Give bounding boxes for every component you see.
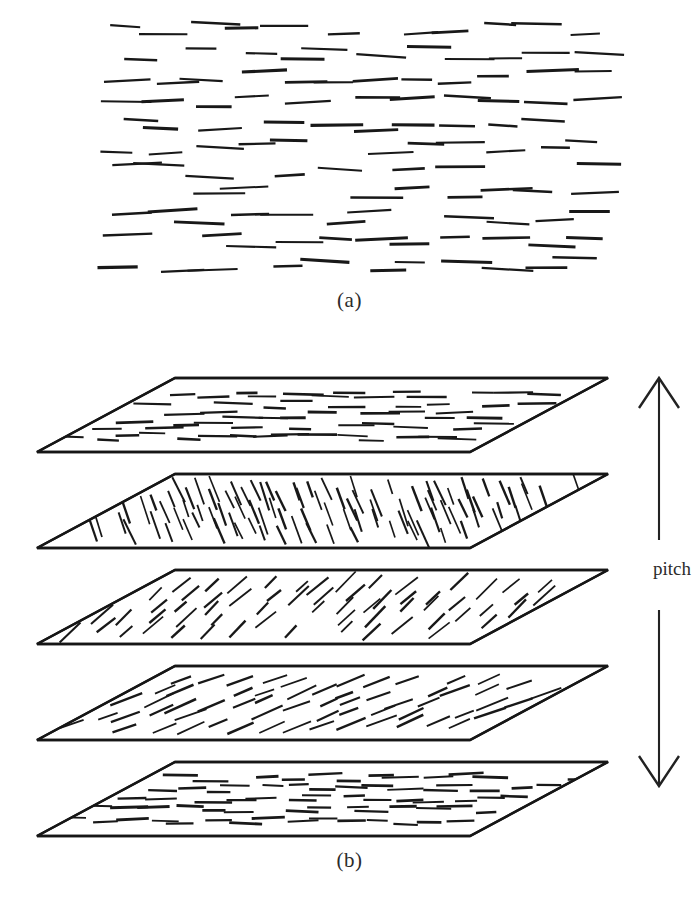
molecule-rod — [183, 519, 192, 540]
molecule-rod — [205, 601, 218, 615]
molecule-rod — [441, 528, 446, 543]
molecule-rod — [260, 526, 265, 541]
molecule-rod — [137, 807, 169, 808]
molecule-rod — [319, 238, 352, 240]
molecule-rod — [145, 427, 183, 428]
molecule-rod — [503, 579, 520, 593]
molecule-rod — [475, 684, 499, 695]
molecule-rod — [387, 789, 423, 790]
molecule-rod — [390, 521, 396, 538]
molecule-rod — [176, 608, 196, 627]
molecule-rod — [320, 699, 337, 707]
molecule-rod — [120, 626, 133, 637]
molecule-rod — [124, 59, 157, 60]
molecule-rod — [170, 394, 195, 395]
molecule-rod — [347, 210, 391, 213]
molecule-rod — [536, 219, 574, 221]
molecule-rod — [338, 610, 355, 626]
molecule-rod — [431, 508, 440, 533]
molecule-rod — [369, 775, 394, 776]
molecule-rod — [235, 497, 245, 519]
molecule-rod — [362, 423, 394, 424]
molecule-rod — [165, 523, 172, 542]
molecule-rod — [285, 101, 331, 104]
molecule-rod — [573, 474, 582, 500]
molecule-rod — [449, 719, 470, 728]
molecule-rod — [307, 577, 329, 595]
molecule-rod — [312, 395, 349, 397]
molecule-rod — [373, 590, 391, 609]
molecule-rod — [277, 526, 286, 545]
figure-root: (a) pitch (b) — [0, 0, 699, 905]
molecule-rod — [335, 692, 353, 699]
layer-rod-group — [89, 474, 582, 548]
molecule-rod — [229, 589, 251, 606]
molecule-rod — [399, 708, 424, 720]
molecule-rod — [149, 587, 161, 600]
molecule-rod — [396, 676, 419, 684]
molecule-rod — [327, 525, 334, 544]
molecule-rod — [205, 579, 219, 592]
molecule-rod — [507, 681, 532, 689]
molecule-rod — [565, 140, 597, 142]
molecule-rod — [478, 101, 520, 102]
molecule-rod — [246, 53, 277, 54]
molecule-rod — [522, 484, 532, 510]
molecule-rod — [337, 675, 365, 687]
molecule-rod — [300, 259, 349, 262]
molecule-rod — [174, 222, 225, 224]
molecule-rod — [455, 711, 474, 718]
molecule-rod — [438, 82, 472, 83]
molecule-rod — [368, 152, 414, 154]
molecule-rod — [482, 238, 530, 239]
molecule-rod — [164, 414, 204, 415]
molecule-rod — [220, 187, 268, 189]
molecule-rod — [97, 440, 119, 441]
molecule-rod — [227, 676, 253, 686]
molecule-rod — [474, 423, 514, 424]
molecule-rod — [275, 174, 305, 176]
molecule-rod — [202, 234, 241, 236]
molecule-rod — [412, 486, 422, 511]
molecule-rod — [180, 79, 223, 81]
molecule-rod — [355, 238, 408, 241]
molecule-rod — [395, 262, 425, 263]
molecule-rod — [339, 708, 358, 715]
molecule-rod — [367, 692, 391, 700]
molecule-rod — [497, 502, 502, 518]
molecule-rod — [515, 506, 520, 521]
molecule-rod — [133, 404, 171, 405]
molecule-rod — [311, 125, 364, 126]
layer-plane-outline-top — [37, 378, 608, 452]
molecule-rod — [209, 719, 228, 727]
molecule-rod — [504, 698, 532, 707]
molecule-rod — [392, 617, 413, 634]
molecule-rod — [571, 34, 600, 36]
molecule-rod — [148, 790, 177, 791]
molecule-rod — [426, 591, 440, 604]
molecule-rod — [447, 676, 465, 684]
molecule-rod — [347, 807, 369, 808]
molecule-rod — [112, 213, 152, 215]
molecule-rod — [540, 486, 547, 507]
molecule-rod — [461, 521, 467, 539]
molecule-rod — [286, 811, 319, 813]
molecule-rod — [355, 509, 362, 532]
molecule-rod — [527, 69, 579, 71]
molecule-rod — [227, 577, 247, 594]
molecule-rod — [354, 130, 398, 132]
molecule-rod — [371, 706, 395, 716]
molecule-rod — [214, 402, 253, 403]
pitch-arrow — [639, 378, 679, 786]
molecule-rod — [191, 22, 240, 24]
molecule-rod — [151, 495, 157, 511]
panel-a-rod-group — [98, 22, 625, 272]
molecule-rod — [283, 701, 310, 710]
panel-b-cholesteric — [0, 340, 699, 860]
molecule-rod — [229, 621, 245, 638]
molecule-rod — [482, 615, 497, 629]
molecule-rod — [231, 427, 263, 428]
molecule-rod — [124, 119, 159, 121]
molecule-rod — [259, 722, 284, 734]
molecule-rod — [196, 146, 244, 149]
